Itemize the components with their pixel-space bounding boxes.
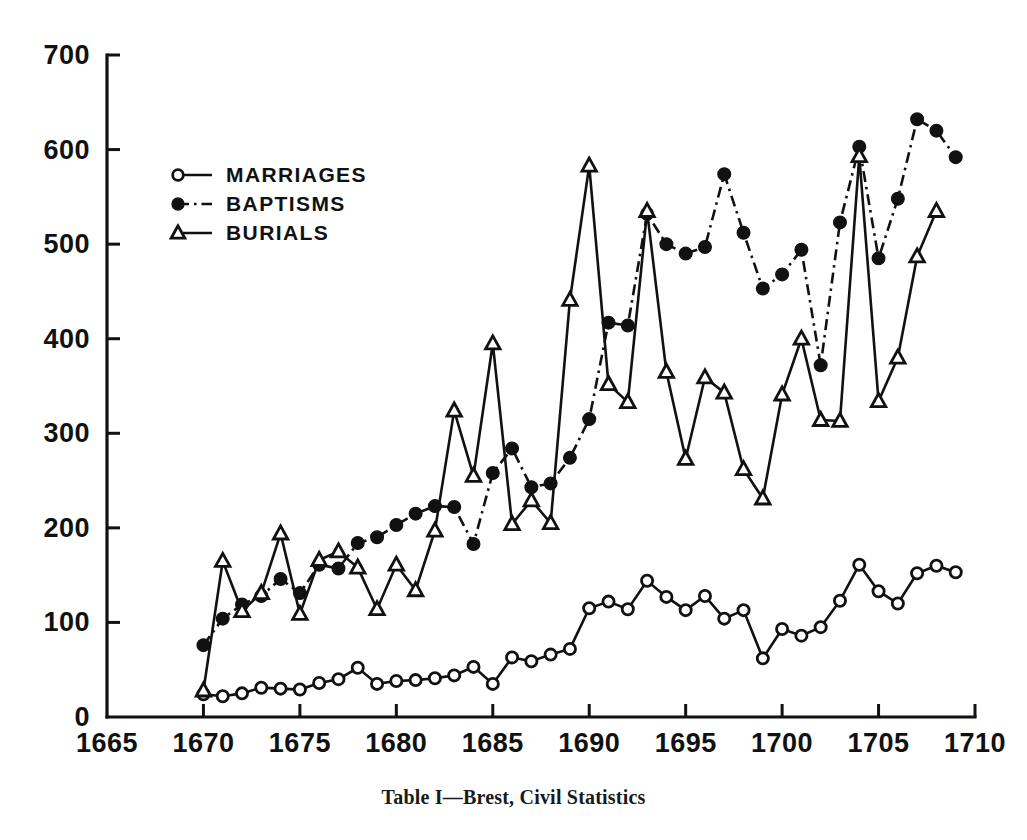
open-circle-icon [641,575,652,586]
open-circle-icon [449,670,460,681]
x-axis-tick-label: 1665 [76,728,138,758]
open-circle-icon [487,678,498,689]
filled-circle-icon [814,359,827,372]
open-circle-icon [506,652,517,663]
open-circle-icon [699,590,710,601]
filled-circle-icon [891,192,904,205]
filled-circle-icon [872,252,885,265]
filled-circle-icon [506,442,519,455]
y-axis-tick-label: 100 [43,607,90,637]
filled-circle-icon [351,537,364,550]
open-circle-icon [796,630,807,641]
filled-circle-icon [467,538,480,551]
open-circle-icon [468,661,479,672]
open-circle-icon [391,675,402,686]
open-circle-icon [950,567,961,578]
filled-circle-icon [699,241,712,254]
filled-circle-icon [621,319,634,332]
civil-statistics-line-chart: 0100200300400500600700 16651670167516801… [0,0,1027,840]
open-circle-icon [834,595,845,606]
open-circle-icon [173,170,184,181]
open-circle-icon [294,684,305,695]
open-circle-icon [777,623,788,634]
open-circle-icon [603,596,614,607]
chart-background [0,0,1027,840]
open-circle-icon [352,662,363,673]
y-axis-tick-label: 500 [43,229,90,259]
open-circle-icon [680,605,691,616]
open-circle-icon [719,613,730,624]
x-axis-tick-label: 1700 [751,728,813,758]
filled-circle-icon [583,413,596,426]
legend-label-marriages: MARRIAGES [226,163,367,186]
filled-circle-icon [930,124,943,137]
open-circle-icon [410,675,421,686]
open-circle-icon [371,678,382,689]
open-circle-icon [757,653,768,664]
filled-circle-icon [718,168,731,181]
open-circle-icon [333,674,344,685]
filled-circle-icon [409,507,422,520]
filled-circle-icon [737,226,750,239]
x-axis-tick-label: 1705 [848,728,910,758]
open-circle-icon [526,656,537,667]
filled-circle-icon [448,501,461,514]
filled-circle-icon [679,247,692,260]
filled-circle-icon [332,562,345,575]
filled-circle-icon [216,612,229,625]
chart-figure: 0100200300400500600700 16651670167516801… [0,0,1027,840]
x-axis-tick-label: 1680 [365,728,427,758]
open-circle-icon [545,649,556,660]
filled-circle-icon [390,519,403,532]
filled-circle-icon [756,282,769,295]
open-circle-icon [256,682,267,693]
filled-circle-icon [486,467,499,480]
open-circle-icon [564,643,575,654]
open-circle-icon [275,683,286,694]
open-circle-icon [873,586,884,597]
legend-label-baptisms: BAPTISMS [226,192,346,215]
y-axis-tick-label: 700 [43,40,90,70]
filled-circle-icon [564,451,577,464]
x-axis-tick-label: 1670 [172,728,234,758]
filled-circle-icon [834,216,847,229]
open-circle-icon [429,673,440,684]
open-circle-icon [815,622,826,633]
filled-circle-icon [911,113,924,126]
legend-label-burials: BURIALS [226,221,329,244]
filled-circle-icon [274,573,287,586]
filled-circle-icon [776,268,789,281]
open-circle-icon [661,591,672,602]
open-circle-icon [854,559,865,570]
y-axis-tick-label: 300 [43,418,90,448]
open-circle-icon [314,677,325,688]
filled-circle-icon [949,151,962,164]
filled-circle-icon [795,243,808,256]
open-circle-icon [622,604,633,615]
open-circle-icon [217,691,228,702]
open-circle-icon [236,688,247,699]
x-axis-tick-label: 1675 [269,728,331,758]
y-axis-tick-label: 600 [43,135,90,165]
filled-circle-icon [197,639,210,652]
filled-circle-icon [172,198,184,210]
open-circle-icon [892,598,903,609]
open-circle-icon [584,603,595,614]
open-circle-icon [912,568,923,579]
x-axis-tick-label: 1710 [944,728,1006,758]
y-axis-tick-label: 400 [43,324,90,354]
open-circle-icon [931,560,942,571]
open-circle-icon [738,605,749,616]
figure-caption: Table I—Brest, Civil Statistics [0,786,1027,809]
x-axis-tick-label: 1685 [462,728,524,758]
x-axis-tick-label: 1690 [558,728,620,758]
filled-circle-icon [371,531,384,544]
filled-circle-icon [660,238,673,251]
x-axis-tick-label: 1695 [655,728,717,758]
y-axis-tick-label: 200 [43,513,90,543]
